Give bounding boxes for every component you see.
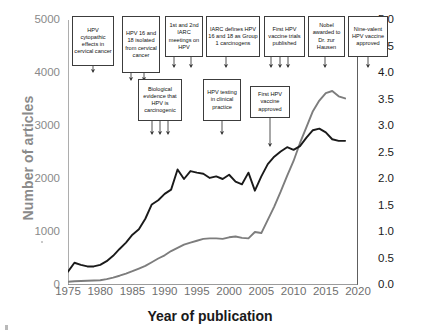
annotation-biological-evidence-carcinogenic: Biological evidence that HPV is carcinog… xyxy=(138,79,182,121)
annotation-label: HPV testing in clinical practice xyxy=(205,89,239,111)
chart-figure: Number of articles Rate per 1000 article… xyxy=(0,0,426,331)
annotation-iarc-defines-group1: IARC defines HPV 16 and 18 as Group 1 ca… xyxy=(206,16,260,57)
annotation-nobel-zur-hausen: Nobel awarded to Dr. zur Hausen xyxy=(308,16,345,57)
annotation-label: First HPV vaccine trials published xyxy=(266,26,303,48)
annotation-label: Nine-valent HPV vaccine approved xyxy=(350,26,386,48)
annotation-label: 1st and 2nd IARC meetings on HPV xyxy=(167,22,201,51)
annotation-hpv-cytopathic-effects: HPV cytopathic effects in cervical cance… xyxy=(72,16,114,66)
annotation-label: IARC defines HPV 16 and 18 as Group 1 ca… xyxy=(208,26,258,48)
annotation-nine-valent-vaccine: Nine-valent HPV vaccine approved xyxy=(348,16,388,57)
annotation-label: Biological evidence that HPV is carcinog… xyxy=(140,86,180,115)
annotation-iarc-meetings: 1st and 2nd IARC meetings on HPV xyxy=(165,16,203,57)
annotation-first-hpv-vaccine-approved: First HPV vaccine approved xyxy=(250,86,290,118)
annotation-label: First HPV vaccine approved xyxy=(252,91,288,113)
annotation-first-hpv-vaccine-trials: First HPV vaccine trials published xyxy=(264,16,305,57)
annotation-label: HPV 16 and 18 isolated from cervical can… xyxy=(124,30,158,59)
annotation-hpv-testing-clinical-practice: HPV testing in clinical practice xyxy=(203,79,241,121)
annotation-label: Nobel awarded to Dr. zur Hausen xyxy=(310,22,343,51)
annotation-hpv-16-18-isolated: HPV 16 and 18 isolated from cervical can… xyxy=(122,16,160,73)
annotation-label: HPV cytopathic effects in cervical cance… xyxy=(74,27,112,56)
